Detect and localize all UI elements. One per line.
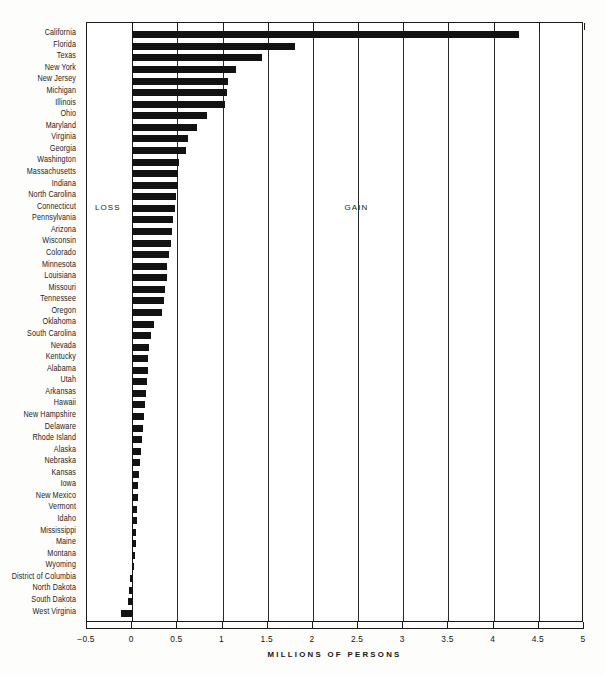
bar xyxy=(132,205,174,212)
bar xyxy=(132,78,228,85)
bar xyxy=(132,66,236,73)
gridline-4.5 xyxy=(539,23,540,621)
bar xyxy=(132,263,167,270)
bar xyxy=(132,321,154,328)
top-tick-2.5 xyxy=(358,23,359,30)
bar xyxy=(132,43,295,50)
x-tick--0.5 xyxy=(86,622,87,629)
bar xyxy=(121,610,132,617)
category-label: West Virginia xyxy=(33,607,76,616)
x-tick-2 xyxy=(312,622,313,629)
category-label: Alaska xyxy=(54,445,76,454)
x-tick-4.5 xyxy=(538,622,539,629)
category-label: Vermont xyxy=(49,503,76,512)
category-label: Montana xyxy=(47,549,76,558)
bar xyxy=(132,309,162,316)
category-label: South Carolina xyxy=(27,329,76,338)
category-label: North Carolina xyxy=(28,190,76,199)
x-tick-label-0.5: 0.5 xyxy=(170,634,182,644)
category-label: New Hampshire xyxy=(24,410,76,419)
x-tick-label-3.5: 3.5 xyxy=(441,634,453,644)
bar xyxy=(132,135,188,142)
x-tick-2.5 xyxy=(357,622,358,629)
category-label: Hawaii xyxy=(54,399,76,408)
bar xyxy=(132,355,148,362)
category-axis-labels: CaliforniaFloridaTexasNew YorkNew Jersey… xyxy=(0,22,80,622)
category-label: New Jersey xyxy=(37,75,76,84)
category-label: New York xyxy=(45,63,76,72)
category-label: Delaware xyxy=(45,422,76,431)
top-tick-3 xyxy=(403,23,404,30)
x-tick-label-2.5: 2.5 xyxy=(351,634,363,644)
bar xyxy=(132,367,147,374)
bar xyxy=(132,274,166,281)
category-label: Michigan xyxy=(46,86,76,95)
bar xyxy=(132,529,136,536)
gridline-4 xyxy=(494,23,495,621)
bar xyxy=(132,448,141,455)
x-tick-label--0.5: −0.5 xyxy=(77,634,94,644)
bar xyxy=(132,182,178,189)
category-label: Nevada xyxy=(51,341,76,350)
category-label: Alabama xyxy=(47,364,76,373)
x-tick-0.5 xyxy=(176,622,177,629)
x-tick-3.5 xyxy=(447,622,448,629)
plot-area: LOSS GAIN xyxy=(86,22,583,622)
x-tick-4 xyxy=(493,622,494,629)
category-label: Idaho xyxy=(58,514,77,523)
top-tick-4.5 xyxy=(539,23,540,30)
category-label: Ohio xyxy=(60,109,76,118)
bar xyxy=(132,378,146,385)
x-tick-0 xyxy=(131,622,132,629)
bar xyxy=(132,344,149,351)
category-label: Wisconsin xyxy=(42,237,76,246)
bar xyxy=(132,170,178,177)
category-label: Rhode Island xyxy=(32,433,76,442)
gridline-3.5 xyxy=(448,23,449,621)
category-label: Indiana xyxy=(52,179,76,188)
bar xyxy=(132,147,186,154)
bar xyxy=(132,101,225,108)
category-label: Georgia xyxy=(50,144,76,153)
category-label: Washington xyxy=(37,156,76,165)
bar xyxy=(132,251,169,258)
bar xyxy=(128,598,133,605)
category-label: Massachusetts xyxy=(27,167,76,176)
x-tick-label-4.5: 4.5 xyxy=(532,634,544,644)
category-label: Colorado xyxy=(46,248,76,257)
bar xyxy=(132,506,137,513)
bar xyxy=(132,240,171,247)
x-tick-5 xyxy=(583,622,584,629)
bar xyxy=(132,332,151,339)
top-tick-5 xyxy=(584,23,585,30)
bar xyxy=(132,159,179,166)
category-label: Texas xyxy=(57,52,76,61)
bar xyxy=(130,575,132,582)
category-label: Louisiana xyxy=(44,271,76,280)
bar xyxy=(132,482,138,489)
gridline-1 xyxy=(223,23,224,621)
category-label: Maine xyxy=(56,537,76,546)
category-label: Illinois xyxy=(55,98,76,107)
x-axis-title: MILLIONS OF PERSONS xyxy=(86,650,583,659)
bar xyxy=(132,124,197,131)
x-tick-label-1: 1 xyxy=(219,634,224,644)
top-tick-2 xyxy=(313,23,314,30)
category-label: Virginia xyxy=(51,133,76,142)
category-label: New Mexico xyxy=(36,491,76,500)
category-label: Pennsylvania xyxy=(32,214,76,223)
category-label: Kentucky xyxy=(46,352,76,361)
category-label: Florida xyxy=(53,40,76,49)
gridline-2.5 xyxy=(358,23,359,621)
category-label: South Dakota xyxy=(31,595,76,604)
category-label: Nebraska xyxy=(44,456,76,465)
bar xyxy=(132,54,262,61)
bar xyxy=(132,228,172,235)
x-tick-label-1.5: 1.5 xyxy=(261,634,273,644)
x-tick-3 xyxy=(402,622,403,629)
bar xyxy=(132,517,137,524)
x-tick-label-4: 4 xyxy=(490,634,495,644)
top-tick-0.5 xyxy=(177,23,178,30)
x-tick-1.5 xyxy=(267,622,268,629)
x-tick-label-3: 3 xyxy=(400,634,405,644)
